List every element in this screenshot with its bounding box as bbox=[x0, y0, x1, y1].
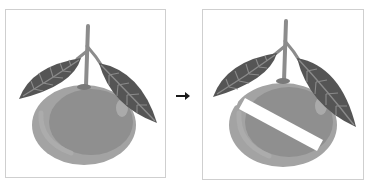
before-image-panel bbox=[5, 9, 166, 178]
stem bbox=[77, 26, 104, 86]
after-image-panel bbox=[202, 9, 364, 180]
tangerine-sliced-illustration bbox=[203, 10, 364, 180]
arrow-glyph: ➜ bbox=[0, 0, 1, 1]
stem bbox=[274, 21, 301, 81]
right-arrow-icon bbox=[175, 88, 191, 102]
tangerine-whole-illustration bbox=[6, 10, 166, 178]
